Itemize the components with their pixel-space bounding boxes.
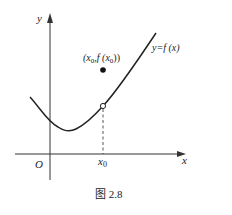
discontinuity-diagram: y O x x0 y=f (x) (x0,f (x0)) 图 2.8 [0, 0, 232, 215]
x0-tick-label: x0 [97, 155, 107, 169]
open-point-icon [100, 103, 105, 108]
curve-label: y=f (x) [151, 42, 180, 54]
y-axis-arrow-icon [47, 13, 53, 23]
x-axis-label: x [181, 154, 187, 166]
point-label: (x0,f (x0)) [83, 52, 120, 65]
function-curve [30, 33, 156, 131]
origin-label: O [35, 158, 43, 170]
figure-caption: 图 2.8 [95, 188, 123, 200]
y-axis-label: y [36, 12, 42, 24]
filled-point-icon [100, 67, 106, 73]
